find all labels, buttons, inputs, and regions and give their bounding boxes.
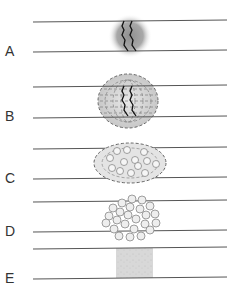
diagram-canvas: [0, 0, 242, 291]
cell-cluster: [102, 195, 160, 241]
panel-b-callus: [33, 74, 227, 128]
panel-e-remodeled-bone: [33, 247, 227, 279]
panel-a-hematoma: [33, 14, 227, 58]
panel-c-soft-callus: [33, 143, 227, 183]
remodeled-bone-segment: [116, 248, 153, 278]
panel-d-bony-callus: [33, 195, 227, 241]
